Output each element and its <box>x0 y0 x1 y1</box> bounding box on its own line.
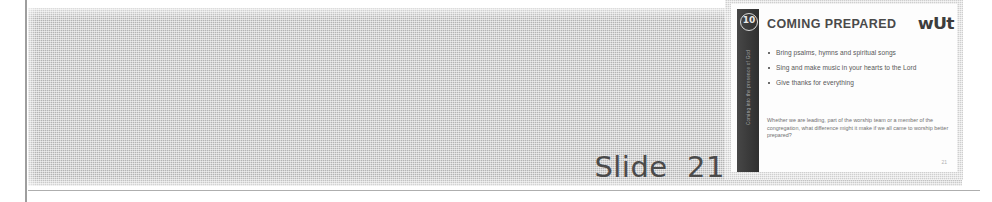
slide-caption: Slide 21 <box>560 150 725 184</box>
slide-question-paragraph: Whether we are leading, part of the wors… <box>767 117 957 140</box>
brand-logo-icon: wUt <box>918 14 954 33</box>
slide-sidebar: 10 Coming into the presence of God <box>737 9 759 172</box>
list-item: Bring psalms, hymns and spiritual songs <box>767 48 957 58</box>
list-item: Give thanks for everything <box>767 78 957 88</box>
list-item: Sing and make music in your hearts to th… <box>767 63 957 73</box>
slide-title-row: COMING PREPARED wUt <box>767 14 953 33</box>
page-margin-rule-horizontal <box>28 190 980 191</box>
scanned-page: Slide 21 10 Coming into the presence of … <box>0 0 992 202</box>
slide-title: COMING PREPARED <box>767 17 896 31</box>
slide-section-badge: 10 <box>740 13 758 31</box>
slide-canvas: 10 Coming into the presence of God COMIN… <box>731 4 957 172</box>
slide-page-number: 21 <box>941 159 947 165</box>
page-margin-rule-vertical <box>25 0 27 202</box>
slide-sidebar-vertical-label: Coming into the presence of God <box>746 33 751 143</box>
slide-bullet-list: Bring psalms, hymns and spiritual songs … <box>767 48 957 93</box>
slide-thumbnail: 10 Coming into the presence of God COMIN… <box>725 0 963 180</box>
